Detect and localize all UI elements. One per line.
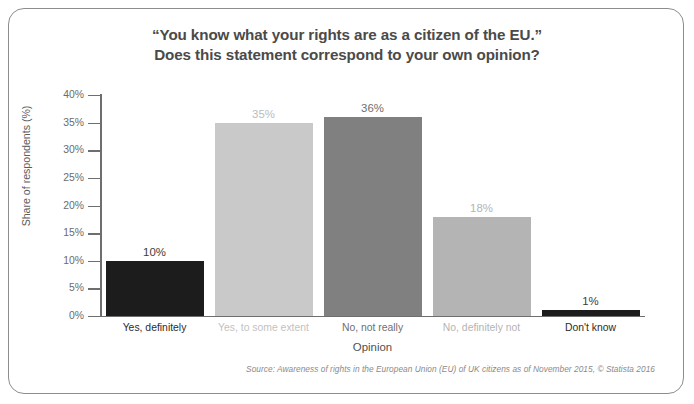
y-axis-tick: [88, 316, 100, 317]
y-axis-tick-label: 5%: [48, 282, 84, 293]
y-axis-tick: [88, 206, 100, 207]
bar-value-label: 10%: [106, 246, 204, 258]
y-axis-tick-label: 0%: [48, 310, 84, 321]
plot-area: 10%35%36%18%1%: [100, 95, 645, 316]
y-axis-tick: [88, 288, 100, 289]
chart-title-line-1: “You know what your rights are as a citi…: [0, 25, 694, 45]
y-axis-tick: [88, 261, 100, 262]
y-axis-title: Share of respondents (%): [20, 86, 32, 246]
y-axis-tick-label: 10%: [48, 255, 84, 266]
y-axis-tick-label: 15%: [48, 227, 84, 238]
x-axis-category-label: Don't know: [536, 322, 645, 333]
y-axis-tick: [88, 233, 100, 234]
bar-value-label: 35%: [215, 108, 313, 120]
x-axis-category-label: Yes, definitely: [100, 322, 209, 333]
bar-value-label: 36%: [324, 102, 422, 114]
y-axis-tick-label: 25%: [48, 172, 84, 183]
bar[interactable]: [106, 261, 204, 316]
chart-title-line-2: Does this statement correspond to your o…: [0, 45, 694, 65]
y-axis-tick-label: 35%: [48, 117, 84, 128]
bar-value-label: 18%: [433, 202, 531, 214]
y-axis-tick: [88, 150, 100, 151]
chart-title: “You know what your rights are as a citi…: [0, 25, 694, 65]
x-axis-title: Opinion: [100, 341, 645, 353]
bar[interactable]: [215, 123, 313, 316]
x-axis-category-label: Yes, to some extent: [209, 322, 318, 333]
y-axis-tick: [88, 178, 100, 179]
y-axis-tick-label: 20%: [48, 200, 84, 211]
y-axis-tick-label: 40%: [48, 89, 84, 100]
bar[interactable]: [542, 310, 640, 316]
bar[interactable]: [433, 217, 531, 316]
bar[interactable]: [324, 117, 422, 316]
y-axis-tick: [88, 95, 100, 96]
source-note: Source: Awareness of rights in the Europ…: [0, 364, 655, 374]
y-axis-tick: [88, 123, 100, 124]
bar-value-label: 1%: [542, 295, 640, 307]
x-axis-category-label: No, definitely not: [427, 322, 536, 333]
y-axis-tick-label: 30%: [48, 144, 84, 155]
x-axis-category-label: No, not really: [318, 322, 427, 333]
